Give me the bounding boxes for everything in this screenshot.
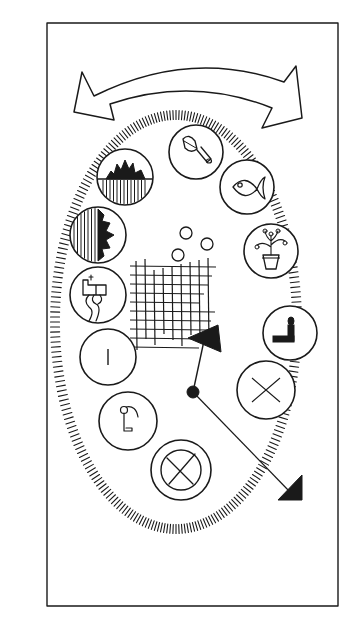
oval-tick <box>276 425 285 428</box>
oval-tick <box>148 116 151 124</box>
bubble-icon <box>201 238 213 250</box>
oval-tick <box>164 524 165 533</box>
oval-tick <box>257 468 265 473</box>
oval-tick <box>241 489 248 495</box>
oval-tick <box>88 172 96 177</box>
oval-tick <box>160 112 162 121</box>
oval-tick <box>291 287 300 288</box>
oval-tick <box>97 481 104 486</box>
potted-plant-icon <box>244 224 298 278</box>
oval-tick <box>266 450 274 454</box>
envelope-icon <box>237 361 295 419</box>
oval-tick <box>264 453 272 457</box>
oval-tick <box>292 297 301 298</box>
oval-tick <box>74 199 82 203</box>
oval-tick <box>51 342 60 343</box>
oval-tick <box>198 115 201 124</box>
pivot-dot-icon <box>187 386 199 398</box>
oval-tick <box>57 390 66 392</box>
oval-tick <box>195 522 198 531</box>
oval-tick <box>151 521 154 530</box>
oval-tick <box>74 442 82 446</box>
illustration <box>0 0 352 626</box>
oval-tick <box>92 474 100 479</box>
faucet-pipe-icon <box>70 267 126 323</box>
oval-tick <box>79 453 87 457</box>
oval-tick <box>55 267 64 268</box>
oval-tick <box>83 179 91 183</box>
oval-tick <box>90 471 98 476</box>
oval-tick <box>51 297 60 298</box>
oval-tick <box>271 203 279 206</box>
oval-tick <box>184 524 185 533</box>
oval-tick <box>187 524 188 533</box>
fish-icon <box>220 160 274 214</box>
oval-tick <box>292 302 301 303</box>
oval-tick <box>268 446 276 450</box>
oval-tick <box>83 461 91 465</box>
oval-tick <box>157 522 159 531</box>
oval-tick <box>170 111 171 120</box>
oval-tick <box>90 168 98 173</box>
oval-tick <box>53 366 62 367</box>
oval-tick <box>181 111 182 120</box>
oval-tick <box>290 277 299 278</box>
oval-tick <box>276 216 285 219</box>
oval-tick <box>69 430 77 433</box>
oval-tick <box>76 446 84 450</box>
oval-tick <box>53 361 62 362</box>
oval-tick <box>289 371 298 372</box>
oval-tick <box>78 450 86 454</box>
oval-tick <box>54 371 63 372</box>
oval-tick <box>246 484 253 489</box>
sun-beside-water-icon <box>70 207 126 263</box>
oval-tick <box>289 272 298 273</box>
oval-tick <box>51 347 60 348</box>
oval-tick <box>63 412 72 414</box>
oval-tick <box>160 523 162 532</box>
oval-tick <box>275 430 283 433</box>
oval-tick <box>198 521 201 530</box>
oval-tick <box>71 207 79 210</box>
oval-tick <box>54 272 63 273</box>
oval-tick <box>56 380 65 382</box>
oval-tick <box>53 277 62 278</box>
oval-tick <box>279 417 288 420</box>
oval-tick <box>270 442 278 446</box>
oval-tick <box>65 417 74 420</box>
oval-tick <box>55 376 64 377</box>
oval-tick <box>61 404 70 406</box>
oval-tick <box>66 421 75 424</box>
oval-tick <box>275 211 283 214</box>
oval-tick <box>81 457 89 461</box>
crossed-circle-icon <box>151 440 211 500</box>
bubble-icon <box>180 227 192 239</box>
oval-tick <box>291 292 300 293</box>
oval-tick <box>164 112 165 121</box>
oval-tick <box>56 262 65 264</box>
oval-tick <box>86 464 94 468</box>
oval-tick <box>94 478 101 483</box>
oval-tick <box>52 356 61 357</box>
oval-tick <box>67 216 76 219</box>
oval-tick <box>81 183 89 187</box>
oval-tick <box>167 111 168 120</box>
oval-tick <box>67 425 76 428</box>
oval-tick <box>244 487 251 493</box>
oval-tick <box>192 113 194 122</box>
oval-tick <box>154 522 157 531</box>
oval-tick <box>201 116 204 124</box>
oval-tick <box>53 282 62 283</box>
symbol-diagram <box>0 0 352 626</box>
oval-tick <box>60 399 69 401</box>
oval-tick <box>52 292 61 293</box>
oval-tick <box>101 487 108 493</box>
oval-tick <box>241 149 248 155</box>
oval-tick <box>79 187 87 191</box>
oval-tick <box>145 117 148 125</box>
oval-tick <box>195 114 198 123</box>
chisel-icon <box>169 125 223 179</box>
oval-tick <box>62 408 71 410</box>
oval-tick <box>58 248 67 250</box>
curved-double-arrow-icon <box>74 66 302 128</box>
